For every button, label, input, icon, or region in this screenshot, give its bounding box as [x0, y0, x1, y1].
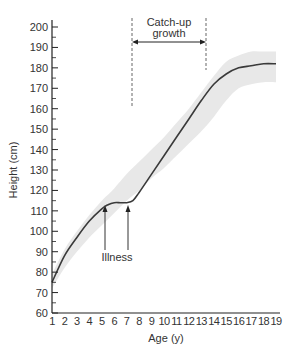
x-tick-label: 10: [158, 315, 170, 327]
y-tick-label: 150: [30, 123, 48, 135]
y-tick-label: 130: [30, 164, 48, 176]
x-tick-label: 5: [99, 315, 105, 327]
catchup-label-line2: growth: [152, 27, 185, 39]
x-tick-label: 14: [208, 315, 220, 327]
x-tick-label: 18: [258, 315, 270, 327]
x-tick-label: 16: [233, 315, 245, 327]
arrowhead-up-icon: [126, 205, 131, 212]
x-tick-label: 19: [270, 315, 282, 327]
height-line-path: [52, 64, 276, 283]
illness-label: Illness: [101, 251, 133, 263]
x-tick-label: 4: [87, 315, 93, 327]
y-tick-label: 160: [30, 103, 48, 115]
y-tick-label: 90: [36, 246, 48, 258]
y-tick-label: 100: [30, 225, 48, 237]
x-tick-label: 11: [171, 315, 182, 327]
y-tick-label: 170: [30, 82, 48, 94]
x-tick-label: 13: [196, 315, 208, 327]
x-tick-label: 17: [245, 315, 257, 327]
y-tick-label: 140: [30, 144, 48, 156]
x-tick-label: 8: [136, 315, 142, 327]
x-tick-label: 3: [74, 315, 80, 327]
x-tick-label: 7: [124, 315, 130, 327]
y-tick-label: 80: [36, 266, 48, 278]
y-tick-label: 200: [30, 21, 48, 33]
x-tick-label: 2: [62, 315, 68, 327]
y-tick-label: 180: [30, 62, 48, 74]
x-tick-label: 12: [183, 315, 195, 327]
y-tick-label: 60: [36, 307, 48, 319]
y-tick-label: 110: [30, 205, 48, 217]
y-tick-label: 190: [30, 41, 48, 53]
x-tick-label: 15: [221, 315, 233, 327]
height-curve: [52, 64, 276, 283]
y-axis-label: Height (cm): [7, 142, 19, 199]
y-tick-label: 70: [36, 287, 48, 299]
x-axis-label: Age (y): [148, 332, 183, 344]
growth-chart: Catch-upgrowthIllness 607080901001101201…: [0, 0, 290, 355]
x-tick-label: 9: [149, 315, 155, 327]
y-tick-label: 120: [30, 184, 48, 196]
band-shape: [52, 51, 276, 288]
arrowhead-right-icon: [200, 40, 206, 45]
normal-range-band: [52, 51, 276, 288]
x-tick-label: 1: [49, 315, 55, 327]
x-tick-label: 6: [111, 315, 117, 327]
arrowhead-left-icon: [132, 40, 138, 45]
